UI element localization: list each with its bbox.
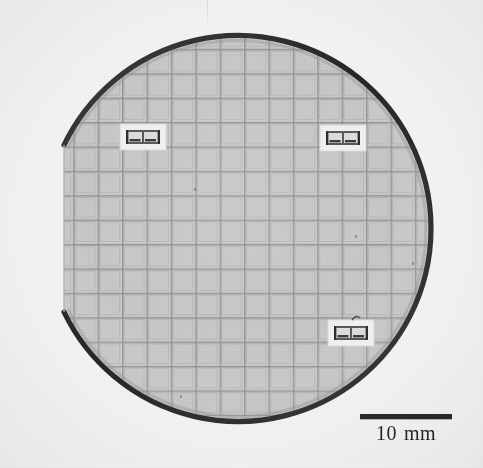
scale-bar-rule xyxy=(360,414,452,419)
wafer-figure: 10mm xyxy=(0,0,483,468)
inset-top-right xyxy=(320,125,366,151)
scale-bar-unit: mm xyxy=(404,422,436,444)
dust-speck xyxy=(355,235,357,238)
dust-speck xyxy=(194,188,196,191)
dust-speck xyxy=(412,262,414,265)
scan-artifact xyxy=(207,0,208,34)
inset-top-left xyxy=(120,124,166,150)
wafer-image xyxy=(0,0,483,468)
wafer-body xyxy=(0,0,483,468)
inset-bottom-right xyxy=(328,316,374,346)
scale-bar: 10mm xyxy=(352,414,460,444)
dust-speck xyxy=(180,395,182,398)
scale-bar-label: 10mm xyxy=(352,422,460,444)
scale-bar-value: 10 xyxy=(376,422,397,444)
